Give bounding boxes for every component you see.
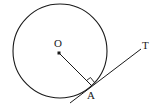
circle [13, 4, 107, 98]
label-O: O [54, 37, 62, 49]
tangent-diagram: O A T [0, 0, 156, 106]
label-A: A [87, 89, 95, 101]
radius-OA [59, 53, 92, 86]
tangent-line-AT [70, 49, 141, 103]
center-point-O [58, 52, 61, 55]
label-T: T [142, 39, 149, 51]
